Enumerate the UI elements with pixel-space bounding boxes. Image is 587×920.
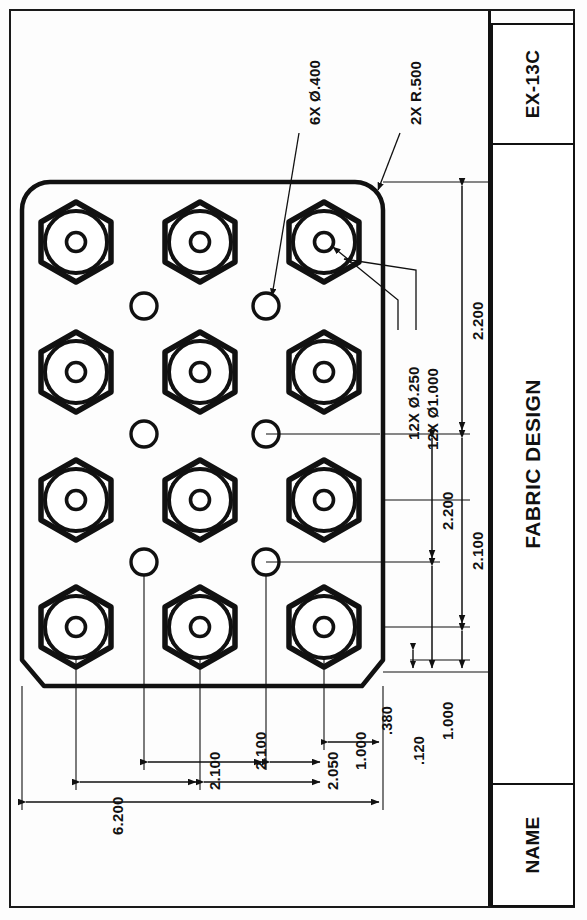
dim-2050: 2.050 (325, 751, 340, 790)
dim-1000-right: 1.000 (440, 701, 455, 740)
drawing-title-text: FABRIC DESIGN (521, 379, 545, 549)
dim-2100-b: 2.100 (253, 731, 268, 770)
revision-text: EX-13C (522, 50, 544, 118)
note-6x-d400: 6X Ø.400 (307, 60, 322, 125)
dim-2200-outer: 2.200 (470, 301, 485, 340)
dim-2200-inner: 2.200 (440, 491, 455, 530)
dim-120: .120 (412, 736, 427, 765)
dim-2100-a: 2.100 (207, 751, 222, 790)
note-12x-d250: 12X Ø.250 (406, 366, 421, 440)
title-block-revision-cell: EX-13C (491, 23, 575, 145)
dim-380: .380 (380, 706, 395, 735)
dim-6200: 6.200 (110, 796, 125, 835)
dim-2100-right: 2.100 (470, 531, 485, 570)
title-block-title-cell: FABRIC DESIGN (491, 145, 575, 785)
dim-1000-bottom: 1.000 (353, 731, 368, 770)
title-block: EX-13C FABRIC DESIGN NAME (488, 11, 572, 906)
name-label-text: NAME (522, 816, 544, 873)
drawing-sheet: 6X Ø.400 2X R.500 12X Ø.250 12X Ø1.000 8… (0, 0, 587, 920)
note-2x-r500: 2X R.500 (408, 61, 423, 125)
title-block-name-cell: NAME (491, 785, 575, 907)
note-12x-d1000: 12X Ø1.000 (425, 368, 440, 450)
